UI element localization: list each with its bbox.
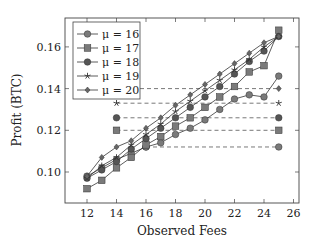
circle-marker-icon: [261, 94, 268, 101]
circle-marker-icon: [172, 131, 179, 138]
circle-marker-icon: [187, 104, 194, 111]
x-tick-label: 26: [287, 207, 301, 220]
circle-marker-icon: [216, 106, 223, 113]
diamond-marker-icon: [129, 138, 134, 144]
y-tick-label: 0.12: [37, 124, 62, 137]
square-marker-icon: [172, 123, 179, 130]
circle-marker-icon: [202, 94, 209, 101]
square-marker-icon: [113, 127, 120, 134]
chart-canvas: 1214161820222426 0.100.120.140.16 Observ…: [0, 0, 319, 242]
diamond-marker-icon: [247, 50, 252, 56]
square-marker-icon: [275, 127, 282, 134]
circle-marker-icon: [187, 125, 194, 132]
profit-vs-fees-chart: 1214161820222426 0.100.120.140.16 Observ…: [0, 0, 319, 242]
circle-marker-icon: [157, 140, 164, 147]
square-marker-icon: [157, 133, 164, 140]
diamond-marker-icon: [158, 115, 163, 121]
x-axis-label: Observed Fees: [137, 224, 227, 238]
square-marker-icon: [275, 27, 282, 34]
square-marker-icon: [98, 177, 105, 184]
circle-marker-icon: [246, 92, 253, 99]
x-tick-label: 24: [257, 207, 271, 220]
y-tick-label: 0.10: [37, 166, 62, 179]
diamond-marker-icon: [114, 144, 119, 150]
circle-marker-icon: [172, 114, 179, 121]
legend-label: μ = 20: [102, 84, 139, 97]
circle-marker-icon: [202, 117, 209, 124]
circle-marker-icon: [84, 59, 91, 66]
square-marker-icon: [84, 45, 91, 52]
square-marker-icon: [143, 142, 150, 149]
y-tick-label: 0.14: [37, 83, 62, 96]
x-tick-label: 22: [228, 207, 242, 220]
circle-marker-icon: [231, 96, 238, 103]
diamond-marker-icon: [217, 71, 222, 77]
x-tick-label: 16: [139, 207, 153, 220]
star-marker-icon: [113, 100, 119, 106]
x-tick-label: 12: [80, 207, 94, 220]
legend: μ = 16μ = 17μ = 18μ = 19μ = 20: [73, 22, 140, 99]
square-marker-icon: [187, 114, 194, 121]
star-marker-icon: [276, 100, 282, 106]
y-tick-label: 0.16: [37, 41, 62, 54]
circle-marker-icon: [113, 158, 120, 165]
x-tick-label: 18: [169, 207, 183, 220]
circle-marker-icon: [275, 73, 282, 80]
square-marker-icon: [84, 185, 91, 192]
diamond-marker-icon: [262, 40, 267, 46]
square-marker-icon: [128, 154, 135, 161]
x-tick-label: 14: [110, 207, 124, 220]
diamond-marker-icon: [203, 81, 208, 87]
diamond-marker-icon: [276, 86, 281, 92]
square-marker-icon: [202, 104, 209, 111]
diamond-marker-icon: [232, 61, 237, 67]
square-marker-icon: [261, 62, 268, 69]
y-axis-label: Profit (BTC): [10, 73, 24, 146]
circle-marker-icon: [84, 31, 91, 38]
square-marker-icon: [216, 94, 223, 101]
circle-marker-icon: [113, 114, 120, 121]
legend-label: μ = 18: [102, 56, 139, 69]
legend-label: μ = 16: [102, 28, 139, 41]
circle-marker-icon: [275, 114, 282, 121]
square-marker-icon: [231, 83, 238, 90]
diamond-marker-icon: [188, 92, 193, 98]
square-marker-icon: [113, 165, 120, 172]
legend-label: μ = 19: [102, 70, 139, 83]
circle-marker-icon: [275, 144, 282, 151]
legend-label: μ = 17: [102, 42, 139, 55]
circle-marker-icon: [216, 83, 223, 90]
square-marker-icon: [246, 69, 253, 76]
x-tick-label: 20: [198, 207, 212, 220]
